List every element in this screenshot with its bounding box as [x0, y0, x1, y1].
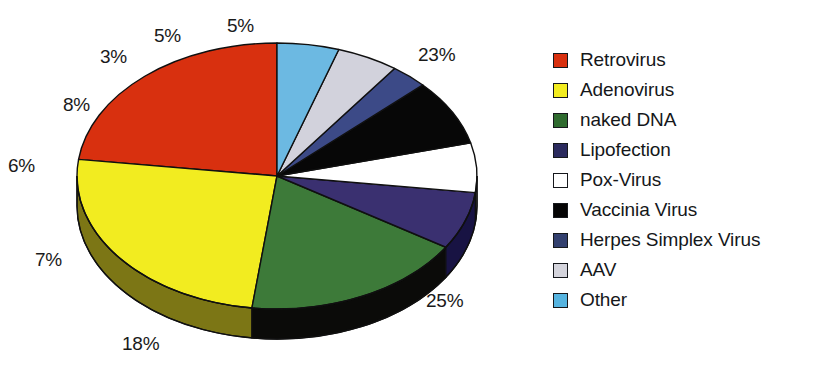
legend-item[interactable]: naked DNA — [553, 105, 818, 135]
pie-slice-percent-label: 8% — [63, 94, 90, 116]
legend-color-swatch — [553, 83, 568, 98]
legend-item-label: Adenovirus — [580, 79, 674, 101]
pie-slice-percent-label: 18% — [122, 333, 159, 355]
legend-item-label: Lipofection — [580, 139, 671, 161]
legend-color-swatch — [553, 233, 568, 248]
legend-item-label: Vaccinia Virus — [580, 199, 697, 221]
legend-item[interactable]: Vaccinia Virus — [553, 195, 818, 225]
legend-item-label: Retrovirus — [580, 49, 666, 71]
pie-slice-adenovirus[interactable]: Adenovirus 25% — [77, 159, 277, 308]
pie-slice-percent-label: 23% — [418, 44, 455, 66]
pie-chart-figure: Retrovirus 23%Adenovirus 25%naked DNA 18… — [0, 0, 818, 369]
legend-color-swatch — [553, 173, 568, 188]
legend-item-label: Herpes Simplex Virus — [580, 229, 760, 251]
legend-color-swatch — [553, 143, 568, 158]
legend-color-swatch — [553, 263, 568, 278]
pie-slice-percent-label: 25% — [426, 290, 463, 312]
legend-item[interactable]: Herpes Simplex Virus — [553, 225, 818, 255]
legend-item-label: Other — [580, 289, 627, 311]
legend-item-label: AAV — [580, 259, 616, 281]
pie-slice-percent-label: 6% — [8, 155, 35, 177]
legend-item-label: Pox-Virus — [580, 169, 661, 191]
legend-color-swatch — [553, 113, 568, 128]
legend-item-label: naked DNA — [580, 109, 676, 131]
legend-item[interactable]: Pox-Virus — [553, 165, 818, 195]
pie-slice-percent-label: 5% — [227, 15, 254, 37]
legend-color-swatch — [553, 53, 568, 68]
legend-item[interactable]: Retrovirus — [553, 45, 818, 75]
pie-slice-percent-label: 5% — [154, 25, 181, 47]
pie-slice-percent-label: 3% — [100, 46, 127, 68]
legend-color-swatch — [553, 203, 568, 218]
legend-item[interactable]: Other — [553, 285, 818, 315]
pie-slice-percent-label: 7% — [35, 249, 62, 271]
legend-color-swatch — [553, 293, 568, 308]
chart-legend: RetrovirusAdenovirusnaked DNALipofection… — [553, 45, 818, 315]
legend-item[interactable]: AAV — [553, 255, 818, 285]
pie-slices: Retrovirus 23%Adenovirus 25%naked DNA 18… — [77, 43, 477, 309]
legend-item[interactable]: Lipofection — [553, 135, 818, 165]
legend-item[interactable]: Adenovirus — [553, 75, 818, 105]
